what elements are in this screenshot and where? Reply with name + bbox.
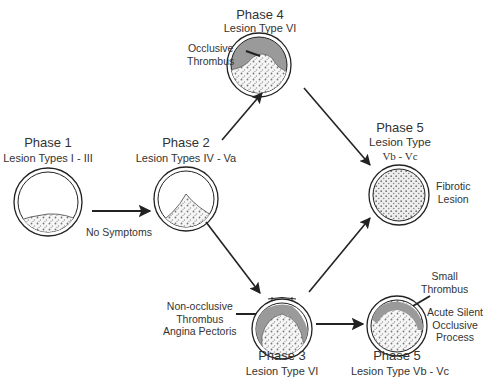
annotation-line: Occlusive bbox=[427, 319, 483, 332]
annotation-line: Small bbox=[421, 270, 468, 283]
annotation-non-occlusive: Non-occlusive Thrombus Angina Pectoris bbox=[163, 300, 237, 338]
annotation-line: Acute Silent bbox=[427, 306, 483, 319]
annotation-line: Non-occlusive bbox=[163, 300, 237, 313]
arrow-p2-to-p4 bbox=[222, 93, 262, 140]
phase4-lesion: Lesion Type VI bbox=[210, 22, 310, 35]
phase2-lesion: Lesion Types IV - Va bbox=[130, 152, 242, 165]
vessel-phase5-fibrotic bbox=[369, 165, 429, 225]
pointer-small-thrombus bbox=[413, 296, 430, 306]
vessel-phase1 bbox=[14, 168, 82, 240]
vessel-phase5-acute bbox=[367, 296, 427, 356]
annotation-line: Thrombus bbox=[163, 313, 237, 326]
annotation-no-symptoms: No Symptoms bbox=[86, 226, 152, 239]
phase5-fibrotic-range: Vb - Vc bbox=[360, 150, 440, 163]
arrow-p3-to-p5-fibrotic bbox=[309, 218, 370, 292]
vessel-phase4 bbox=[227, 33, 291, 100]
annotation-line: Thrombus bbox=[187, 55, 234, 68]
annotation-line: Thrombus bbox=[421, 283, 468, 296]
phase1-title: Phase 1 bbox=[0, 136, 96, 151]
diagram-canvas bbox=[0, 0, 497, 388]
phase5-acute-lesion: Lesion Type Vb - Vc bbox=[340, 365, 460, 378]
phase1-lesion: Lesion Types I - III bbox=[0, 152, 102, 165]
annotation-small-thrombus: Small Thrombus bbox=[421, 270, 468, 295]
annotation-line: Process bbox=[427, 331, 483, 344]
annotation-line: Fibrotic bbox=[436, 180, 470, 193]
annotation-occlusive-thrombus: Occlusive Thrombus bbox=[187, 42, 234, 67]
annotation-line: Occlusive bbox=[187, 42, 234, 55]
annotation-acute-silent: Acute Silent Occlusive Process bbox=[427, 306, 483, 344]
phase3-title: Phase 3 bbox=[237, 349, 327, 364]
phase5-fibrotic-lesion: Lesion Type bbox=[360, 136, 440, 149]
phase5-acute-title: Phase 5 bbox=[357, 349, 437, 364]
annotation-fibrotic-lesion: Fibrotic Lesion bbox=[436, 180, 470, 205]
arrow-p2-to-p3 bbox=[206, 222, 260, 293]
phase5-fibrotic-title: Phase 5 bbox=[360, 121, 440, 136]
annotation-line: Lesion bbox=[436, 193, 470, 206]
phase3-lesion: Lesion Type VI bbox=[230, 365, 334, 378]
annotation-line: Angina Pectoris bbox=[163, 325, 237, 338]
phase4-title: Phase 4 bbox=[215, 8, 305, 23]
phase2-title: Phase 2 bbox=[140, 136, 232, 151]
